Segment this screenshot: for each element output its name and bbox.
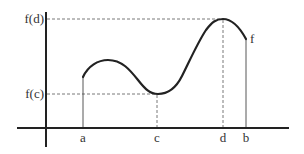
curve-label-f: f bbox=[250, 31, 255, 46]
y-label-max: f(d) bbox=[25, 11, 45, 26]
x-label-a: a bbox=[80, 130, 86, 145]
x-label-b: b bbox=[243, 130, 250, 145]
extreme-value-diagram: f(d) f(c) a c d b f bbox=[0, 0, 304, 154]
y-label-min: f(c) bbox=[25, 86, 44, 101]
function-curve bbox=[83, 19, 246, 94]
x-label-d: d bbox=[220, 130, 227, 145]
x-label-c: c bbox=[154, 130, 160, 145]
